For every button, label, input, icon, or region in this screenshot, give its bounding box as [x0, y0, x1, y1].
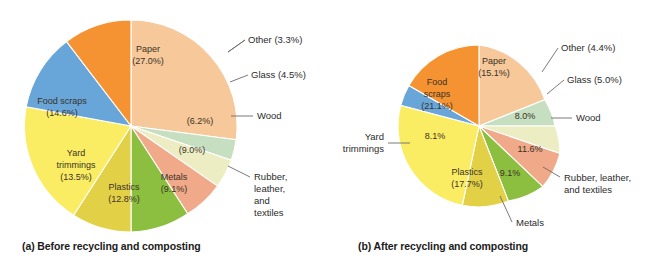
label-food-scraps: Food scraps — [37, 96, 87, 106]
caption-panel-a: (a) Before recycling and composting — [22, 240, 201, 252]
label-wood-outside: Wood — [257, 110, 282, 121]
label-glass-outside: Glass (5.0%) — [567, 74, 622, 85]
label-other-outside: Other (4.4%) — [561, 42, 615, 53]
pie-outside-labels-before: Other (3.3%) Glass (4.5%) Wood Rubber, l… — [248, 34, 306, 218]
label-plastics-value: (17.7%) — [451, 179, 483, 189]
caption-panel-b: (b) After recycling and composting — [358, 240, 528, 252]
label-metals-outside: Metals — [516, 217, 544, 228]
pie-chart-before: Paper (27.0%) Food scraps (14.6%) Yard t… — [0, 0, 332, 262]
leader-rubber — [228, 166, 250, 177]
label-plastics-value: (12.8%) — [108, 194, 140, 204]
label-metals: Metals — [161, 172, 188, 182]
label-plastics: Plastics — [451, 167, 483, 177]
label-yard-outside-line2: trimmings — [343, 143, 384, 154]
label-yard-trimmings-value: (13.5%) — [60, 172, 92, 182]
label-metals-value: (9.1%) — [161, 184, 188, 194]
label-paper-value: (27.0%) — [132, 56, 164, 66]
label-food-scraps-line2: scraps — [424, 89, 451, 99]
label-yard-trimmings-line1: Yard — [67, 148, 85, 158]
label-rubber-value: (9.0%) — [179, 145, 206, 155]
label-food-scraps-value: (14.6%) — [46, 108, 78, 118]
label-yard-outside-line1: Yard — [365, 131, 384, 142]
label-yard-trimmings-value: 8.1% — [425, 131, 446, 141]
label-rubber-outside-line1: Rubber, leather, — [564, 172, 631, 183]
label-other-outside: Other (3.3%) — [248, 34, 302, 45]
label-food-scraps-value: (21.1%) — [421, 101, 453, 111]
label-yard-trimmings-line2: trimmings — [56, 160, 96, 170]
leader-glass — [230, 75, 248, 82]
label-rubber-outside-line3: and — [254, 195, 270, 206]
label-wood-outside: Wood — [576, 112, 601, 123]
panel-after-recycling: Paper (15.1%) Food scraps (21.1%) 8.1% P… — [332, 0, 664, 262]
label-rubber-outside-line2: leather, — [254, 183, 285, 194]
label-rubber-outside-line2: and textiles — [564, 184, 612, 195]
panel-before-recycling: Paper (27.0%) Food scraps (14.6%) Yard t… — [0, 0, 332, 262]
label-wood-value: 8.0% — [515, 111, 536, 121]
leader-other-h — [228, 40, 245, 52]
figure-two-pie-charts: Paper (27.0%) Food scraps (14.6%) Yard t… — [0, 0, 664, 262]
label-metals-value: 9.1% — [500, 168, 521, 178]
label-rubber-outside-line1: Rubber, — [254, 171, 287, 182]
label-wood-value: (6.2%) — [187, 116, 214, 126]
label-paper: Paper — [482, 56, 506, 66]
label-paper-value: (15.1%) — [478, 68, 510, 78]
label-food-scraps-line1: Food — [427, 77, 448, 87]
label-rubber-value: 11.6% — [518, 144, 543, 154]
label-plastics: Plastics — [108, 182, 140, 192]
label-rubber-outside-line4: textiles — [254, 207, 284, 218]
slice-paper[interactable] — [131, 20, 237, 140]
leader-other — [542, 48, 558, 72]
label-paper: Paper — [136, 44, 160, 54]
leader-glass — [547, 80, 564, 94]
label-glass-outside: Glass (4.5%) — [251, 69, 306, 80]
pie-chart-after: Paper (15.1%) Food scraps (21.1%) 8.1% P… — [332, 0, 664, 262]
